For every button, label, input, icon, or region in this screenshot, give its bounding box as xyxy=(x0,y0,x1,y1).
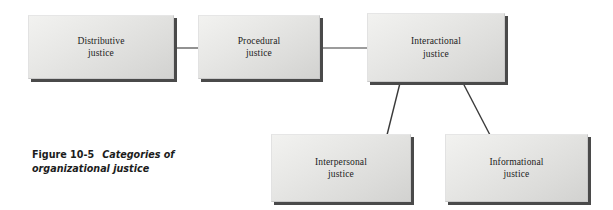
node-label-procedural-justice: Procedural justice xyxy=(234,35,285,59)
node-label-interactional-justice: Interactional justice xyxy=(407,35,465,59)
connector-interactional-to-interpersonal xyxy=(387,83,400,135)
node-label-line1: Interpersonal xyxy=(315,156,367,168)
node-label-line1: Informational xyxy=(489,156,543,168)
figure-caption-title-line1: Categories of xyxy=(102,149,174,160)
node-interpersonal-justice: Interpersonal justice xyxy=(271,134,411,202)
figure-caption-label: Figure 10-5 xyxy=(32,149,94,160)
node-label-interpersonal-justice: Interpersonal justice xyxy=(311,156,371,180)
node-label-line1: Procedural xyxy=(238,35,281,47)
node-label-line1: Distributive xyxy=(77,35,124,47)
node-procedural-justice: Procedural justice xyxy=(198,15,320,79)
connector-interactional-to-informational xyxy=(463,83,490,135)
node-distributive-justice: Distributive justice xyxy=(28,15,174,79)
figure-container: Distributive justice Procedural justice … xyxy=(0,0,613,210)
figure-caption: Figure 10-5Categories of organizational … xyxy=(32,148,232,176)
node-label-line2: justice xyxy=(238,47,281,59)
node-label-line2: justice xyxy=(489,168,543,180)
node-label-line2: justice xyxy=(411,48,461,60)
figure-caption-title-line2: organizational justice xyxy=(32,163,149,174)
node-label-line2: justice xyxy=(315,168,367,180)
node-interactional-justice: Interactional justice xyxy=(367,13,505,82)
node-label-distributive-justice: Distributive justice xyxy=(73,35,128,59)
node-informational-justice: Informational justice xyxy=(445,134,588,202)
node-label-informational-justice: Informational justice xyxy=(485,156,547,180)
node-label-line1: Interactional xyxy=(411,35,461,47)
node-label-line2: justice xyxy=(77,47,124,59)
